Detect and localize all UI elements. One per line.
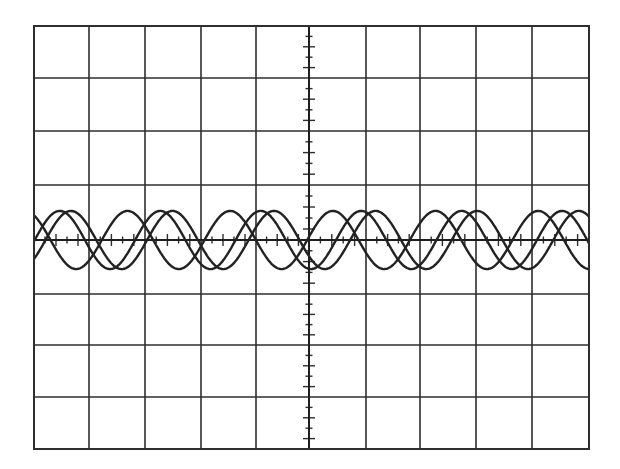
graticule-grid [34,26,589,449]
oscilloscope-graticule-chart [0,0,620,469]
center-axes [34,26,589,449]
graticule-border [34,26,589,449]
axis-subdivision-ticks [45,36,578,438]
